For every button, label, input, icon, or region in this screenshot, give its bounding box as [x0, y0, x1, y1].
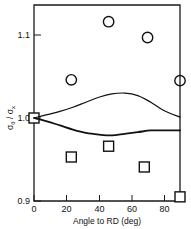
y-axis-slash: / [5, 114, 15, 121]
y-axis-title: σθ / σx [5, 106, 16, 130]
x-tick-label-80: 80 [159, 204, 169, 214]
scatter-plot: 1.1 1.0 0.9 0 20 40 60 80 Angle to RD (d… [0, 0, 191, 229]
x-tick-label-20: 20 [61, 204, 71, 214]
y-tick-label-top: 1.1 [17, 30, 30, 40]
chart-figure: 1.1 1.0 0.9 0 20 40 60 80 Angle to RD (d… [0, 0, 191, 229]
y-tick-label-bottom: 0.9 [17, 196, 30, 206]
y-axis-sub-2: x [10, 106, 16, 109]
data-point-square-3 [139, 162, 149, 172]
data-point-square-1 [66, 152, 76, 162]
x-tick-label-0: 0 [31, 204, 36, 214]
data-point-square-2 [104, 141, 114, 151]
x-axis-title: Angle to RD (deg) [73, 216, 141, 226]
data-point-square-4 [175, 192, 185, 202]
y-axis-title-text: σθ / σx [5, 106, 16, 130]
x-tick-label-60: 60 [127, 204, 137, 214]
y-tick-label-mid: 1.0 [17, 113, 30, 123]
x-tick-label-40: 40 [94, 204, 104, 214]
